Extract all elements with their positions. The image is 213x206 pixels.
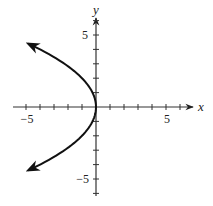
y-axis-label: y xyxy=(91,2,99,17)
y-tick-label-neg5: −5 xyxy=(76,172,89,186)
x-tick-label-neg5: −5 xyxy=(21,112,34,126)
x-tick-label-5: 5 xyxy=(164,112,170,126)
x-axis-label: x xyxy=(197,99,204,114)
parabola-chart: −5 5 5 −5 x y xyxy=(0,0,213,206)
y-tick-label-5: 5 xyxy=(82,28,88,42)
